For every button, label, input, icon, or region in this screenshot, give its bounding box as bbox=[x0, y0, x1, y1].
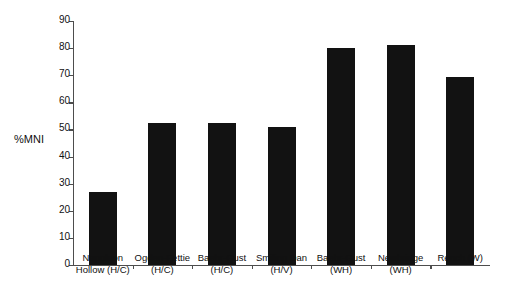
x-tick-label-line: (WH) bbox=[311, 264, 371, 276]
plot-area: 9080706050403020100 bbox=[73, 21, 490, 265]
bar bbox=[208, 123, 236, 265]
bar bbox=[268, 127, 296, 265]
x-tick-label: Baehr-Gust(H/C) bbox=[192, 252, 252, 275]
bar bbox=[327, 48, 355, 265]
x-tick-label-line: Baehr-Gust bbox=[192, 252, 252, 264]
y-tick-label: 80 bbox=[59, 41, 70, 53]
x-tick-label-line: (H/C) bbox=[192, 264, 252, 276]
y-axis-title: %MNI bbox=[14, 133, 44, 145]
x-tick-label: NapoleonHollow (H/C) bbox=[73, 252, 133, 275]
y-tick-label: 60 bbox=[59, 95, 70, 107]
bar bbox=[148, 123, 176, 265]
x-tick-label: Smiling Dan(H/V) bbox=[252, 252, 312, 275]
x-tick-label-line: (H/V) bbox=[252, 264, 312, 276]
x-tick-label-line: Smiling Dan bbox=[252, 252, 312, 264]
y-tick-label: 70 bbox=[59, 68, 70, 80]
bar-chart-figure: %MNI 9080706050403020100 NapoleonHollow … bbox=[0, 0, 505, 308]
y-tick-label: 90 bbox=[59, 14, 70, 26]
x-tick-label-line: Newbridge bbox=[371, 252, 431, 264]
y-axis-line bbox=[73, 21, 74, 265]
bar bbox=[387, 45, 415, 265]
x-tick-label-line: Baehr-Gust bbox=[311, 252, 371, 264]
y-tick-label: 20 bbox=[59, 204, 70, 216]
x-tick-label-line: (H/C) bbox=[133, 264, 193, 276]
x-tick-label: Newbridge(WH) bbox=[371, 252, 431, 275]
x-tick-label-line: (WH) bbox=[371, 264, 431, 276]
y-tick-label: 40 bbox=[59, 150, 70, 162]
x-tick-label-line: Napoleon bbox=[73, 252, 133, 264]
x-tick-label-line: Rench (W) bbox=[430, 252, 490, 264]
y-tick-label: 30 bbox=[59, 177, 70, 189]
y-tick-label: 50 bbox=[59, 122, 70, 134]
y-tick-label: 0 bbox=[64, 258, 70, 270]
x-tick-label: Baehr-Gust(WH) bbox=[311, 252, 371, 275]
x-tick-label: Ogden-Fettie(H/C) bbox=[133, 252, 193, 275]
bar bbox=[446, 77, 474, 265]
x-tick-mark bbox=[430, 265, 431, 269]
x-tick-label-line: Hollow (H/C) bbox=[73, 264, 133, 276]
x-tick-label-line: Ogden-Fettie bbox=[133, 252, 193, 264]
x-tick-label: Rench (W) bbox=[430, 252, 490, 264]
y-tick-label: 10 bbox=[59, 231, 70, 243]
